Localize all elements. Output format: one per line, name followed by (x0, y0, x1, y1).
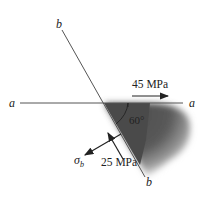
label-a-left: a (9, 96, 15, 110)
label-angle: 60° (129, 114, 144, 126)
label-b-top: b (56, 17, 62, 31)
label-45mpa: 45 MPa (132, 78, 168, 90)
stress-plane-diagram: b b a a 45 MPa 60° 25 MPa σb (0, 0, 209, 199)
label-25mpa: 25 MPa (101, 156, 137, 168)
arrow-sigma-b (85, 134, 121, 155)
label-a-right: a (189, 96, 195, 110)
label-b-bottom: b (146, 175, 152, 189)
label-sigma-b: σb (74, 153, 84, 169)
